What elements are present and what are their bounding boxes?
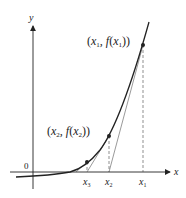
point-x3 (85, 160, 89, 164)
point-label-x2: (x2, f(x2)) (47, 124, 90, 139)
tick-x2: x2 (104, 176, 112, 188)
newton-method-diagram: y x 0 (x1, f(x1)) (x2, f(x2)) x3 x2 x1 (0, 0, 186, 198)
y-axis-label: y (28, 12, 34, 23)
origin-label: 0 (24, 161, 29, 171)
point-x1 (141, 43, 145, 47)
tangent-1 (109, 45, 143, 172)
tick-x3: x3 (82, 176, 90, 188)
x-axis-label: x (173, 166, 179, 177)
point-label-x1: (x1, f(x1)) (87, 34, 130, 49)
tick-x1: x1 (138, 176, 146, 188)
point-x2 (107, 134, 111, 138)
